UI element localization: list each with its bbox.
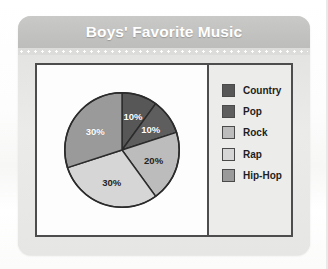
legend-item-rap[interactable]: Rap <box>222 148 282 161</box>
legend-item-label: Rock <box>243 127 267 138</box>
chart-panel: 10%10%20%30%30% CountryPopRockRapHip-Hop <box>35 63 293 237</box>
legend-item-hip-hop[interactable]: Hip-Hop <box>222 169 282 182</box>
legend-panel: CountryPopRockRapHip-Hop <box>207 65 291 235</box>
legend-item-label: Hip-Hop <box>243 170 282 181</box>
legend-item-rock[interactable]: Rock <box>222 126 282 139</box>
legend-swatch-icon <box>222 105 235 118</box>
legend-list: CountryPopRockRapHip-Hop <box>222 84 282 182</box>
legend-item-pop[interactable]: Pop <box>222 105 282 118</box>
legend-swatch-icon <box>222 169 235 182</box>
legend-item-label: Pop <box>243 106 262 117</box>
perforated-divider <box>18 48 310 55</box>
perforation-dots <box>20 50 308 53</box>
legend-item-label: Rap <box>243 149 262 160</box>
pie-chart-svg <box>63 91 181 209</box>
legend-item-label: Country <box>243 85 281 96</box>
legend-swatch-icon <box>222 84 235 97</box>
chart-card: Boys' Favorite Music 10%10%20%30%30% Cou… <box>18 16 310 255</box>
legend-item-country[interactable]: Country <box>222 84 282 97</box>
legend-swatch-icon <box>222 126 235 139</box>
card-header: Boys' Favorite Music <box>18 16 310 48</box>
pie-chart: 10%10%20%30%30% <box>63 91 181 209</box>
page-title: Boys' Favorite Music <box>86 23 242 41</box>
pie-chart-area: 10%10%20%30%30% <box>37 65 207 235</box>
legend-swatch-icon <box>222 148 235 161</box>
